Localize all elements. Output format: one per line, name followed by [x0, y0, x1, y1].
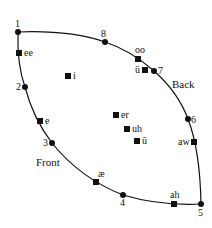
cardinal-point-4: 4 — [120, 192, 126, 208]
cardinal-point-1: 1 — [15, 18, 21, 35]
square-marker-icon — [65, 73, 71, 79]
region-labels: BackFront — [36, 78, 195, 168]
cardinal-label: 4 — [120, 197, 125, 208]
square-marker-icon — [191, 139, 197, 145]
vowel-label: ū — [135, 64, 140, 75]
cardinal-label: 6 — [191, 114, 196, 125]
dot-marker-icon — [22, 84, 28, 90]
cardinal-points: 12345678 — [15, 18, 204, 218]
vowel-chart: 12345678 eeieeruhŭæahawooū BackFront — [0, 0, 212, 228]
region-label-back: Back — [172, 78, 195, 90]
vowel-ae: æ — [93, 168, 105, 185]
vowel-er: er — [113, 109, 129, 120]
cardinal-label: 3 — [43, 137, 48, 148]
vowel-oo: oo — [135, 44, 145, 62]
vowel-label: ah — [170, 189, 179, 200]
square-marker-icon — [142, 67, 148, 73]
vowel-label: oo — [135, 44, 145, 55]
vowel-uh: uh — [124, 123, 142, 134]
vowel-label: i — [73, 70, 76, 81]
cardinal-label: 2 — [16, 81, 21, 92]
square-marker-icon — [37, 118, 43, 124]
dot-marker-icon — [151, 68, 157, 74]
square-marker-icon — [93, 179, 99, 185]
dot-marker-icon — [49, 140, 55, 146]
vowel-label: æ — [98, 168, 105, 179]
square-marker-icon — [171, 201, 177, 207]
vowel-label: uh — [132, 123, 142, 134]
region-label-front: Front — [36, 156, 60, 168]
vowel-u-breve: ŭ — [134, 135, 147, 146]
cardinal-label: 1 — [15, 18, 20, 29]
vowel-points: eeieeruhŭæahawooū — [16, 44, 197, 207]
square-marker-icon — [113, 112, 119, 118]
cardinal-label: 5 — [198, 207, 203, 218]
vowel-label: er — [121, 109, 129, 120]
vowel-u-macron: ū — [135, 64, 148, 75]
vowel-label: ŭ — [142, 135, 147, 146]
square-marker-icon — [16, 50, 22, 56]
square-marker-icon — [124, 126, 130, 132]
dot-marker-icon — [102, 39, 108, 45]
cardinal-label: 8 — [101, 28, 106, 39]
cardinal-point-8: 8 — [101, 28, 108, 45]
square-marker-icon — [135, 56, 141, 62]
vowel-label: ee — [24, 47, 33, 58]
cardinal-point-5: 5 — [198, 201, 204, 218]
vowel-e: e — [37, 115, 50, 126]
vowel-i: i — [65, 70, 76, 81]
vowel-label: aw — [178, 136, 190, 147]
square-marker-icon — [134, 138, 140, 144]
dot-marker-icon — [15, 29, 21, 35]
cardinal-label: 7 — [158, 65, 163, 76]
vowel-label: e — [45, 115, 50, 126]
